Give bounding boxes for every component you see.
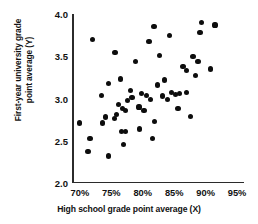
data-point [137, 126, 142, 131]
data-point [77, 120, 82, 125]
y-tick-label: 3.5 [55, 51, 68, 62]
y-axis-title-line2: point average (Y) [24, 37, 35, 103]
y-tick-label: 2.0 [55, 178, 68, 189]
y-tick-label: 2.5 [55, 135, 68, 146]
data-point [90, 37, 95, 42]
data-point [103, 114, 108, 119]
data-point [106, 81, 111, 86]
data-point [141, 108, 146, 113]
data-point [133, 59, 138, 64]
data-point [118, 76, 123, 81]
x-tick-label: 85% [165, 188, 184, 198]
data-point [123, 108, 128, 113]
data-point [157, 53, 162, 58]
data-point [112, 50, 117, 55]
data-point [87, 136, 92, 141]
data-point [148, 97, 153, 102]
data-point [165, 97, 170, 102]
data-point [146, 39, 151, 44]
data-point [195, 59, 200, 64]
data-point [197, 30, 202, 35]
data-point [190, 54, 195, 59]
data-point [114, 112, 119, 117]
x-tick-label: 95% [228, 188, 247, 198]
data-point [106, 153, 111, 158]
data-point [129, 95, 134, 100]
x-axis-line [72, 182, 244, 184]
data-point [155, 82, 160, 87]
plot-area: 2.02.53.03.54.0 70%75%80%85%90%95% [72, 14, 244, 183]
y-tick-label: 4.0 [55, 9, 68, 20]
data-point [167, 33, 172, 38]
data-point [177, 91, 182, 96]
data-point [160, 93, 165, 98]
y-axis-title: First-year university grade point averag… [10, 0, 38, 150]
data-point [100, 120, 105, 125]
x-tick-label: 70% [71, 188, 90, 198]
scatter-plot-figure: First-year university grade point averag… [0, 0, 258, 224]
data-point [208, 66, 213, 71]
x-tick-label: 80% [133, 188, 152, 198]
x-tick-label: 75% [102, 188, 121, 198]
data-point [128, 88, 133, 93]
data-point [85, 149, 90, 154]
data-point [123, 129, 128, 134]
data-point [212, 22, 217, 27]
data-point [188, 114, 193, 119]
data-point [175, 106, 180, 111]
data-point [151, 24, 156, 29]
data-point [184, 68, 189, 73]
data-point [184, 90, 189, 95]
data-point [152, 119, 157, 124]
y-axis-line [72, 14, 74, 183]
y-axis-title-line1: First-year university grade [13, 19, 24, 122]
data-point [193, 73, 198, 78]
data-point [121, 142, 126, 147]
data-point [199, 20, 204, 25]
data-point [162, 77, 167, 82]
data-point [150, 136, 155, 141]
x-axis-title: High school grade point average (X) [0, 204, 258, 214]
y-tick-label: 3.0 [55, 93, 68, 104]
data-point [99, 93, 104, 98]
x-tick-label: 90% [196, 188, 215, 198]
